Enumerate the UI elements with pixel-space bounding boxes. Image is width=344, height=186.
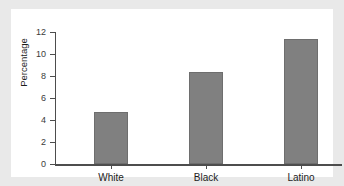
y-tick-label-12: 12: [30, 28, 46, 37]
y-tick-label-4: 4: [30, 116, 46, 125]
bar-latino[interactable]: [284, 39, 318, 164]
y-tick-label-10: 10: [30, 50, 46, 59]
x-tick-label-white: White: [76, 172, 146, 183]
y-tick-label-8: 8: [30, 72, 46, 81]
x-tick-mark-latino: [301, 165, 302, 169]
y-tick-mark-0: [50, 164, 55, 165]
x-tick-label-latino: Latino: [266, 172, 336, 183]
x-axis-line: [55, 164, 342, 166]
y-axis-label: Percentage: [18, 15, 29, 111]
bar-black[interactable]: [189, 72, 223, 164]
figure-container: Percentage 0 2 4 6 8 10 12 White Black: [0, 0, 344, 186]
y-tick-label-6: 6: [30, 94, 46, 103]
chart-panel: Percentage 0 2 4 6 8 10 12 White Black: [11, 9, 333, 177]
y-tick-label-0: 0: [30, 160, 46, 169]
x-tick-mark-white: [111, 165, 112, 169]
x-tick-label-black: Black: [171, 172, 241, 183]
plot-area: [55, 32, 341, 164]
bar-white[interactable]: [94, 112, 128, 164]
y-tick-label-2: 2: [30, 138, 46, 147]
x-tick-mark-black: [206, 165, 207, 169]
